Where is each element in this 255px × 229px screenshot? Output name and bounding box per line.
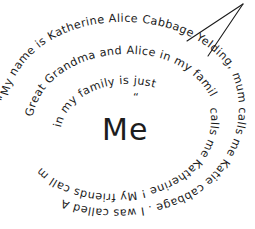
center-word-me: Me	[102, 112, 148, 147]
spiral-note-svg: “My name is Katherine Alice Cabbage Yeld…	[0, 0, 255, 229]
center-quote-open: “	[133, 91, 139, 104]
note-canvas: “My name is Katherine Alice Cabbage Yeld…	[0, 0, 255, 229]
